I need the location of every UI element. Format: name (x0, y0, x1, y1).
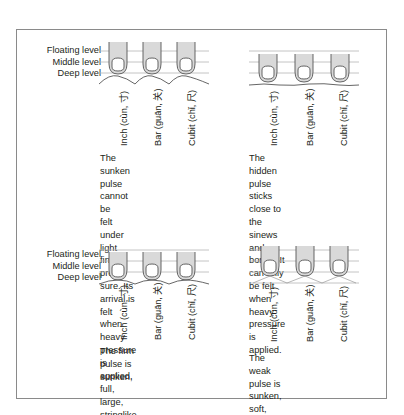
level-labels: Floating level Middle level Deep level (21, 249, 101, 284)
site-label-cubit: Cubit (chǐ, 尺) (336, 286, 350, 342)
pulse-diagram-sunken (99, 42, 209, 90)
pulse-wave (249, 84, 359, 86)
finger-icon (259, 54, 349, 82)
deep-level-label: Deep level (21, 272, 101, 284)
description-weak: The weak pulse is sunken, soft, and thin… (249, 352, 282, 415)
finger-icon (109, 252, 195, 280)
middle-level-label: Middle level (21, 57, 101, 69)
pulse-wave (99, 76, 209, 84)
finger-icon (261, 246, 348, 276)
pulse-diagram-firm (99, 246, 209, 286)
site-label-inch: Inch (cùn, 寸) (116, 285, 130, 340)
site-label-inch: Inch (cùn, 寸) (266, 91, 280, 146)
site-label-inch: Inch (cùn, 寸) (266, 287, 280, 342)
middle-level-label: Middle level (21, 261, 101, 273)
site-label-bar: Bar (guān, 关) (150, 282, 164, 340)
site-label-cubit: Cubit (chǐ, 尺) (336, 90, 350, 146)
level-labels: Floating level Middle level Deep level (21, 45, 101, 80)
pulse-diagram-weak (249, 246, 359, 286)
site-label-bar: Bar (guān, 关) (302, 88, 316, 146)
finger-icon (109, 42, 195, 74)
pulse-wave (253, 276, 356, 283)
description-firm: The firm pulse is sunken, full, large, s… (100, 345, 139, 415)
deep-level-label: Deep level (21, 68, 101, 80)
site-label-inch: Inch (cùn, 寸) (116, 91, 130, 146)
site-label-cubit: Cubit (chǐ, 尺) (184, 284, 198, 340)
site-label-cubit: Cubit (chǐ, 尺) (184, 90, 198, 146)
floating-level-label: Floating level (21, 249, 101, 261)
site-label-bar: Bar (guān, 关) (302, 284, 316, 342)
pulse-diagram-hidden (249, 42, 359, 90)
floating-level-label: Floating level (21, 45, 101, 57)
site-label-bar: Bar (guān, 关) (150, 88, 164, 146)
